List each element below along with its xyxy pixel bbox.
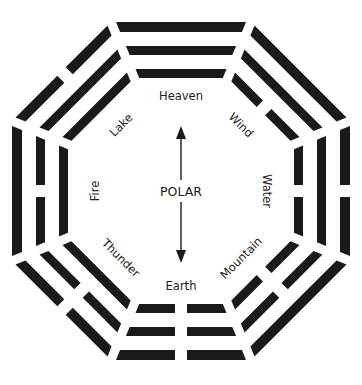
label-wind: Wind — [226, 110, 256, 140]
trigram-line-solid — [136, 69, 227, 78]
trigram-line-broken — [231, 275, 263, 309]
trigram-line-broken — [294, 197, 303, 237]
trigram-line-solid — [126, 46, 236, 55]
trigram-line-broken — [36, 136, 45, 185]
label-fire: Fire — [88, 181, 102, 202]
trigram-fire — [12, 126, 68, 256]
trigram-line-broken — [116, 350, 175, 360]
trigram-water — [294, 126, 350, 256]
trigram-line-solid — [59, 146, 68, 237]
trigram-earth — [116, 304, 246, 360]
trigram-line-broken — [126, 327, 175, 336]
trigram-line-broken — [187, 327, 236, 336]
trigram-line-broken — [231, 73, 263, 107]
label-thunder: Thunder — [98, 235, 143, 280]
center-label-polar: POLAR — [160, 184, 202, 199]
trigram-line-broken — [340, 197, 350, 256]
arrow-head-down-icon — [176, 250, 186, 263]
bagua-diagram: Heaven Earth Fire Water Lake Wind Thunde… — [0, 0, 362, 385]
trigram-heaven — [116, 22, 246, 78]
trigram-line-broken — [294, 146, 303, 186]
trigram-line-solid — [317, 136, 326, 246]
trigram-line-broken — [265, 109, 299, 141]
trigram-line-broken — [340, 126, 350, 185]
arrow-head-up-icon — [176, 126, 186, 139]
trigram-line-broken — [187, 304, 227, 313]
trigram-line-broken — [136, 304, 176, 313]
trigram-line-broken — [187, 350, 246, 360]
label-water: Water — [260, 174, 274, 208]
label-lake: Lake — [107, 111, 136, 140]
label-heaven: Heaven — [159, 89, 203, 103]
label-earth: Earth — [166, 279, 197, 293]
trigram-line-solid — [116, 22, 246, 32]
trigram-line-broken — [265, 241, 299, 273]
trigram-line-broken — [36, 197, 45, 246]
label-mountain: Mountain — [217, 234, 265, 282]
trigram-line-solid — [12, 126, 22, 256]
